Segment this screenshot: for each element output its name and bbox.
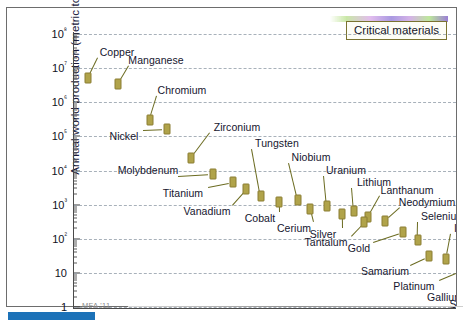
plot-area: CopperManganeseChromiumNickelZirconiumMo… (73, 32, 456, 309)
data-marker (295, 195, 302, 206)
data-marker (426, 251, 433, 262)
data-point-label: Molybdenum (118, 164, 179, 176)
leader-line (178, 174, 208, 177)
y-tick-label: 10 (55, 267, 67, 279)
data-marker (382, 216, 389, 227)
y-tick-label: 10⁶ (52, 96, 67, 108)
y-tick-label: 10⁷ (52, 62, 67, 74)
data-marker (164, 124, 171, 135)
data-marker (415, 235, 422, 246)
data-point-label: Titanium (163, 187, 203, 199)
data-point-label: Gold (348, 242, 370, 254)
data-marker (115, 79, 122, 90)
leader-line (279, 207, 280, 212)
data-point-label: Uranium (326, 164, 366, 176)
gridline (74, 239, 456, 240)
y-tick-label: 10² (52, 233, 67, 245)
data-point-label: Scandium (449, 298, 456, 309)
data-point-label: Cobalt (245, 212, 276, 224)
gridline (74, 68, 456, 69)
data-marker (351, 206, 358, 217)
data-marker (230, 177, 237, 188)
gridline (74, 34, 456, 35)
chart-screenshot: Critical materials Annual world producti… (0, 0, 463, 323)
data-marker (147, 115, 154, 126)
data-point-label: Tungsten (255, 137, 299, 149)
data-marker (307, 204, 314, 215)
data-marker (324, 201, 331, 212)
data-point-label: Tantalum (304, 236, 347, 248)
data-marker (258, 191, 265, 202)
leader-line (151, 96, 158, 116)
leader-line (311, 214, 314, 222)
y-tick-label: 10³ (52, 199, 67, 211)
data-point-label: Nickel (110, 130, 139, 142)
leader-line (439, 273, 456, 281)
data-marker (443, 254, 450, 265)
data-marker (276, 197, 283, 208)
leader-line (323, 176, 326, 201)
leader-line (89, 58, 97, 74)
bottom-progress-bar (8, 312, 95, 320)
data-point-label: Vanadium (184, 205, 231, 217)
bottom-rule-decoration (128, 306, 463, 307)
data-marker (188, 153, 195, 164)
leader-line (208, 183, 229, 188)
leader-line (446, 234, 451, 254)
leader-line (351, 226, 362, 237)
data-point-label: Selenium (421, 210, 456, 222)
leader-line (288, 163, 297, 195)
data-point-label: Indium (454, 222, 456, 234)
leader-line (417, 222, 418, 235)
data-marker (243, 184, 250, 195)
leader-line (410, 258, 425, 266)
data-marker (339, 209, 346, 220)
data-point-label: Zirconium (214, 121, 261, 133)
chart-frame: Critical materials Annual world producti… (6, 7, 457, 307)
leader-line (143, 129, 162, 131)
leader-line (351, 188, 353, 206)
data-point-label: Neodymium (399, 196, 455, 208)
data-point-label: Samarium (361, 265, 409, 277)
data-point-label: Manganese (128, 54, 183, 66)
data-point-label: Niobium (292, 151, 331, 163)
chart-credit: MFA '11 (82, 301, 110, 309)
data-point-label: Lanthanum (381, 184, 434, 196)
data-marker (361, 217, 368, 228)
data-marker (400, 227, 407, 238)
gridline (74, 102, 456, 103)
data-point-label: Cerium (277, 222, 311, 234)
y-tick-label: 10⁵ (52, 130, 67, 142)
y-tick-label: 10⁴ (52, 165, 67, 177)
leader-line (388, 207, 400, 217)
gridline (74, 307, 456, 308)
leader-line (342, 219, 343, 228)
y-tick-label: 10⁸ (52, 28, 67, 40)
data-point-label: Chromium (158, 84, 207, 96)
data-marker (85, 73, 92, 84)
data-marker (210, 169, 217, 180)
